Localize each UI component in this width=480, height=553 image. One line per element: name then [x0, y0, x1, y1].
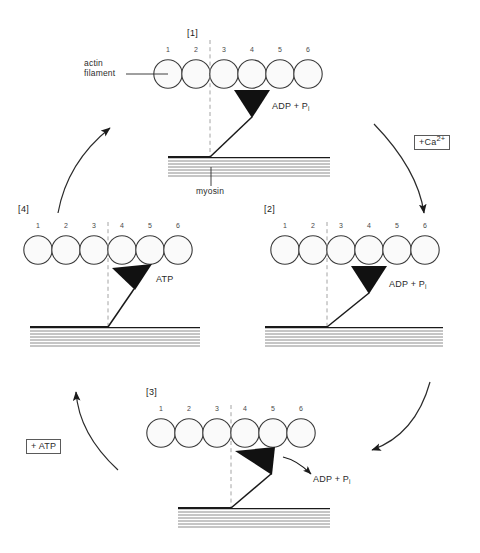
panel-1-chem-label: ADP + Pi — [272, 101, 310, 111]
panel-1-myosin-head — [234, 90, 270, 118]
cycle-arrow-4-to-1 — [58, 128, 110, 213]
panel-4-label: [4] — [18, 204, 29, 214]
panel-1-unit-1: 1 — [161, 46, 175, 53]
panel-4-unit-2: 2 — [59, 222, 73, 229]
panel-4-unit-1: 1 — [31, 222, 45, 229]
calcium-annotation-box: +Ca2+ — [414, 134, 450, 147]
panel-1-chem-text: ADP + P — [272, 101, 308, 111]
actin-filament-label-line2: filament — [84, 68, 115, 78]
panel-1-unit-6: 6 — [301, 46, 315, 53]
panel-4-unit-4: 4 — [115, 222, 129, 229]
atp-annotation-text: + ATP — [26, 439, 61, 454]
cycle-arrow-2-to-3 — [372, 382, 430, 450]
myosin-label: myosin — [196, 186, 224, 196]
panel-2-chem-text: ADP + P — [389, 279, 425, 289]
panel-3-chem-text: ADP + P — [313, 474, 349, 484]
panel-3-unit-2: 2 — [182, 405, 196, 412]
panel-2-myosin-head — [351, 266, 387, 294]
panel-4-myosin-head — [112, 264, 152, 290]
panel-2-unit-4: 4 — [362, 222, 376, 229]
panel-2-myosin-arm — [327, 293, 369, 327]
panel-3-myosin-arm — [231, 474, 271, 508]
cycle-arrow-3-to-4 — [76, 392, 118, 470]
actin-filament-label: actin filament — [84, 58, 115, 78]
panel-3-myosin-thick-filament — [178, 508, 330, 527]
panel-4-myosin-thick-filament — [30, 327, 200, 346]
panel-3-release-arrow — [283, 457, 311, 474]
panel-2-unit-3: 3 — [334, 222, 348, 229]
panel-3-myosin-head — [235, 447, 275, 475]
panel-1-actin-filament — [154, 60, 322, 88]
panel-2-unit-2: 2 — [306, 222, 320, 229]
panel-2-chem-label: ADP + Pi — [389, 279, 427, 289]
panel-1-chem-subscript: i — [308, 105, 310, 112]
panel-4-myosin-arm — [108, 289, 134, 327]
panel-2-unit-6: 6 — [418, 222, 432, 229]
panel-3-unit-5: 5 — [266, 405, 280, 412]
panel-2-label: [2] — [264, 204, 275, 214]
panel-3-unit-3: 3 — [210, 405, 224, 412]
panel-4-unit-6: 6 — [171, 222, 185, 229]
panel-2-actin-filament — [271, 236, 439, 264]
panel-1-myosin-thick-filament — [168, 157, 330, 176]
diagram-vector-layer — [0, 0, 480, 553]
calcium-annotation-charge: 2+ — [436, 134, 445, 143]
panel-3-label: [3] — [146, 387, 157, 397]
panel-2-myosin-thick-filament — [265, 327, 443, 346]
panel-1-myosin-arm — [210, 117, 252, 157]
panel-1-label: [1] — [187, 28, 198, 38]
atp-annotation-label: + ATP — [31, 441, 56, 451]
panel-3-unit-6: 6 — [294, 405, 308, 412]
panel-3-chem-label: ADP + Pi — [313, 474, 351, 484]
panel-3-unit-4: 4 — [238, 405, 252, 412]
panel-1-unit-3: 3 — [217, 46, 231, 53]
actin-filament-label-line1: actin — [84, 58, 103, 68]
panel-2-unit-1: 1 — [278, 222, 292, 229]
diagram-canvas: [1] actin filament 1 2 3 4 5 6 ADP + Pi … — [0, 0, 480, 553]
panel-1-graphics — [126, 40, 330, 186]
panel-2-chem-subscript: i — [425, 283, 427, 290]
panel-4-unit-5: 5 — [143, 222, 157, 229]
panel-1-unit-4: 4 — [245, 46, 259, 53]
calcium-annotation-label: +Ca — [419, 137, 436, 147]
panel-1-unit-2: 2 — [189, 46, 203, 53]
panel-2-unit-5: 5 — [390, 222, 404, 229]
panel-4-unit-3: 3 — [87, 222, 101, 229]
panel-3-graphics — [147, 405, 330, 527]
panel-4-graphics — [24, 222, 200, 346]
panel-1-unit-5: 5 — [273, 46, 287, 53]
panel-3-unit-1: 1 — [154, 405, 168, 412]
calcium-annotation-text: +Ca2+ — [414, 135, 450, 150]
panel-4-chem-label: ATP — [156, 274, 173, 284]
panel-3-chem-subscript: i — [349, 478, 351, 485]
panel-4-chem-text: ATP — [156, 274, 173, 284]
atp-annotation-box: + ATP — [26, 441, 61, 451]
